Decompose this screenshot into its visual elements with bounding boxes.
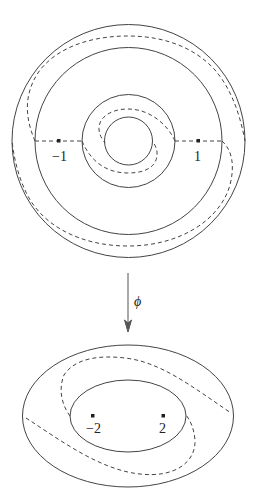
outer-upper-arc (27, 36, 245, 141)
bottom-annulus (23, 345, 234, 487)
top-dashed-arcs (12, 36, 245, 246)
outer-ellipse (23, 345, 234, 487)
puncture-minus-1 (57, 139, 61, 143)
label-2: 2 (159, 421, 166, 436)
map-label-phi: ϕ (134, 294, 141, 309)
bottom-dashed-arcs (26, 357, 231, 475)
label-1: 1 (194, 149, 201, 164)
label-minus-1: −1 (52, 149, 67, 164)
bottom-lower-arc (26, 415, 195, 475)
puncture-2 (162, 414, 166, 418)
bottom-punctures (91, 414, 165, 418)
bottom-upper-arc (61, 357, 231, 416)
puncture-minus-2 (91, 414, 95, 418)
puncture-1 (197, 139, 201, 143)
inner-circle (105, 117, 153, 165)
inner-ellipse (70, 380, 186, 452)
map-arrow (125, 273, 132, 332)
diagram: −1 1 ϕ −2 2 (0, 0, 256, 503)
middle-circle (82, 95, 175, 188)
label-minus-2: −2 (86, 421, 101, 436)
